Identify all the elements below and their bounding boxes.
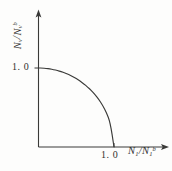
- figure-container: 1. 0 1. 0 N1/N1b Nv/Nvb: [0, 0, 172, 171]
- x-axis-tick-label: 1. 0: [101, 150, 118, 160]
- y-axis-tick-label: 1. 0: [12, 62, 29, 72]
- interaction-curve: [39, 68, 115, 147]
- y-axis-title-numerator-subscript: v: [16, 39, 23, 42]
- y-axis-title-denominator-symbol: N: [12, 28, 23, 35]
- x-axis-title: N1/N1b: [128, 146, 156, 157]
- y-axis-title-denominator-superscript: b: [11, 22, 18, 25]
- y-axis-title-numerator-symbol: N: [12, 42, 23, 49]
- y-axis-title-denominator-subscript: v: [16, 25, 23, 28]
- y-axis-group: [36, 10, 42, 148]
- y-axis-title: Nv/Nvb: [12, 14, 23, 58]
- y-axis-title-slash: /: [12, 36, 23, 40]
- x-axis-title-denominator-superscript: b: [152, 145, 155, 152]
